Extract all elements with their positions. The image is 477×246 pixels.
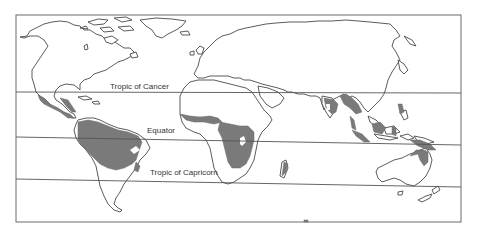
arabian-peninsula bbox=[258, 86, 284, 108]
landmasses bbox=[20, 17, 440, 222]
small-island bbox=[304, 220, 308, 222]
forest-philippines bbox=[398, 104, 404, 114]
kamchatka-islands bbox=[404, 36, 416, 46]
british-isles bbox=[190, 46, 204, 55]
equator-label: Equator bbox=[147, 126, 175, 135]
tasmania bbox=[398, 191, 403, 195]
greenland bbox=[140, 18, 186, 38]
forest-sumatra bbox=[352, 130, 370, 142]
forest-amazon bbox=[78, 120, 142, 170]
world-map: Tropic of Cancer Equator Tropic of Capri… bbox=[0, 0, 477, 246]
tropic-of-cancer-label: Tropic of Cancer bbox=[110, 82, 169, 91]
new-zealand bbox=[418, 186, 440, 202]
japan bbox=[398, 60, 408, 74]
forest-sulawesi bbox=[392, 126, 396, 136]
tropic-of-cancer-line bbox=[16, 92, 461, 93]
tropic-of-capricorn-label: Tropic of Capricorn bbox=[150, 168, 218, 177]
forest-borneo bbox=[372, 122, 386, 134]
caribbean-islands bbox=[78, 96, 100, 104]
forest-malay bbox=[350, 116, 356, 130]
north-america bbox=[20, 21, 134, 118]
tropic-of-capricorn-line bbox=[16, 179, 461, 187]
